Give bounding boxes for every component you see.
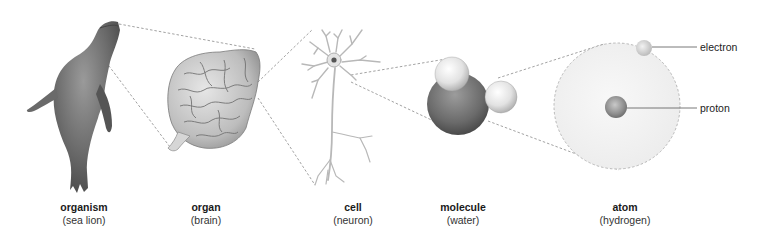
level-molecule: molecule (water): [408, 201, 518, 227]
level-example: (sea lion): [29, 214, 139, 227]
level-organ: organ (brain): [151, 201, 261, 227]
electron-particle: [636, 40, 652, 56]
level-name: atom: [570, 201, 680, 214]
level-example: (water): [408, 214, 518, 227]
callout-proton: proton: [700, 102, 730, 114]
callout-electron: electron: [700, 41, 737, 53]
level-name: molecule: [408, 201, 518, 214]
level-name: organism: [29, 201, 139, 214]
hydrogen-atom-illustration: [554, 40, 697, 169]
water-molecule-illustration: [427, 57, 517, 135]
sea-lion-illustration: [27, 21, 120, 193]
brain-illustration: [168, 50, 260, 151]
proton-particle: [605, 96, 627, 118]
level-name: organ: [151, 201, 261, 214]
level-organism: organism (sea lion): [29, 201, 139, 227]
neuron-illustration: [302, 30, 380, 185]
level-cell: cell (neuron): [298, 201, 408, 227]
level-example: (hydrogen): [570, 214, 680, 227]
level-atom: atom (hydrogen): [570, 201, 680, 227]
level-example: (neuron): [298, 214, 408, 227]
level-name: cell: [298, 201, 408, 214]
level-example: (brain): [151, 214, 261, 227]
